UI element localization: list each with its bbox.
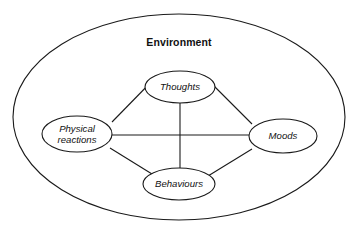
node-moods-label: Moods — [269, 130, 298, 141]
node-behaviours-label: Behaviours — [155, 178, 203, 189]
node-physical-reactions-label-line2: reactions — [58, 134, 97, 145]
diagram-canvas: Environment Thoughts Physical reactions … — [0, 0, 358, 234]
environment-concept-map: Environment Thoughts Physical reactions … — [0, 0, 358, 234]
node-physical-reactions-label-line1: Physical — [59, 123, 96, 134]
environment-title: Environment — [146, 36, 212, 48]
node-thoughts-label: Thoughts — [160, 81, 200, 92]
